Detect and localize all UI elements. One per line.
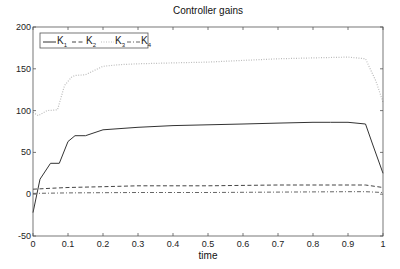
series-k3	[33, 57, 383, 116]
chart-legend: K1K2K3K4	[40, 33, 152, 48]
y-tick-label: 0	[26, 189, 31, 199]
series-layer	[33, 57, 383, 213]
y-tick-label: 100	[16, 106, 31, 116]
x-tick-label: 0.7	[272, 239, 285, 249]
series-k1	[33, 122, 383, 212]
x-tick-label: 0.8	[307, 239, 320, 249]
y-axis-ticks: -50050100150200	[16, 22, 383, 241]
x-axis-label: time	[199, 250, 218, 261]
x-tick-label: 1	[380, 239, 385, 249]
x-tick-label: 0	[30, 239, 35, 249]
x-tick-label: 0.6	[237, 239, 250, 249]
y-tick-label: 150	[16, 64, 31, 74]
x-tick-label: 0.2	[97, 239, 110, 249]
series-k2	[33, 185, 383, 189]
chart-title: Controller gains	[173, 5, 243, 16]
axes-box	[33, 27, 383, 236]
y-tick-label: -50	[18, 231, 31, 241]
x-axis-ticks: 00.10.20.30.40.50.60.70.80.91	[30, 27, 385, 249]
series-k4	[33, 192, 383, 194]
x-tick-label: 0.1	[62, 239, 75, 249]
y-tick-label: 200	[16, 22, 31, 32]
x-tick-label: 0.9	[342, 239, 355, 249]
controller-gains-chart: Controller gains 00.10.20.30.40.50.60.70…	[0, 0, 400, 269]
x-tick-label: 0.3	[132, 239, 145, 249]
x-tick-label: 0.5	[202, 239, 215, 249]
x-tick-label: 0.4	[167, 239, 180, 249]
y-tick-label: 50	[21, 147, 31, 157]
